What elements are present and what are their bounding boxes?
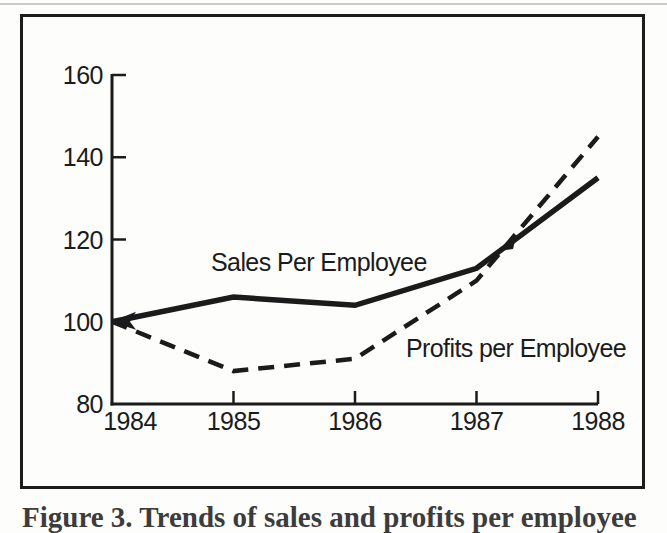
- x-tick-label-1985: 1985: [207, 407, 261, 435]
- y-tick-label-80: 80: [76, 390, 103, 418]
- x-tick-label-1988: 1988: [571, 407, 625, 435]
- sales-series-label: Sales Per Employee: [211, 248, 427, 277]
- y-tick-label-100: 100: [63, 308, 103, 336]
- y-tick-label-120: 120: [63, 226, 103, 254]
- y-tick-label-160: 160: [63, 61, 103, 89]
- x-tick-label-1987: 1987: [450, 407, 504, 435]
- x-tick-label-1986: 1986: [328, 407, 382, 435]
- profits-series-label: Profits per Employee: [406, 334, 626, 363]
- x-tick-label-1984: 1984: [103, 407, 157, 435]
- page-caption-clipped: Figure 3. Trends of sales and profits pe…: [22, 503, 637, 532]
- y-tick-label-140: 140: [63, 143, 103, 171]
